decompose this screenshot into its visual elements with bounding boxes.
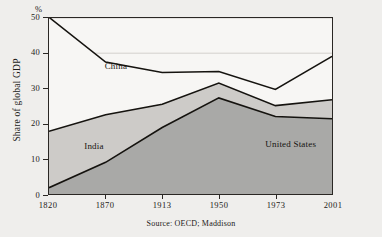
x-tick-label-1950: 1950 (194, 200, 244, 210)
y-tick-mark-0 (43, 195, 48, 196)
series-label-united-states: United States (265, 139, 316, 149)
y-tick-mark-10 (43, 159, 48, 160)
y-tick-mark-30 (43, 88, 48, 89)
plot-area (48, 17, 333, 195)
chart-figure: Share of global GDP % 01020304050 182018… (0, 0, 382, 237)
x-tick-label-1870: 1870 (80, 200, 130, 210)
stacked-area-chart (49, 18, 332, 194)
source-note: Source: OECD; Maddison (0, 219, 382, 228)
y-tick-label-40: 40 (14, 47, 40, 57)
x-tick-label-1820: 1820 (23, 200, 73, 210)
y-tick-label-50: 50 (14, 12, 40, 22)
x-tick-mark-1870 (105, 195, 106, 199)
x-tick-label-2001: 2001 (308, 200, 358, 210)
series-label-india: India (84, 141, 104, 151)
series-label-china: China (105, 61, 128, 71)
y-tick-mark-50 (43, 17, 48, 18)
y-tick-label-10: 10 (14, 154, 40, 164)
y-tick-mark-40 (43, 53, 48, 54)
y-tick-label-20: 20 (14, 118, 40, 128)
y-tick-label-30: 30 (14, 83, 40, 93)
x-tick-mark-1950 (219, 195, 220, 199)
y-tick-label-0: 0 (14, 190, 40, 200)
x-tick-label-1973: 1973 (251, 200, 301, 210)
x-tick-mark-1913 (162, 195, 163, 199)
x-tick-label-1913: 1913 (137, 200, 187, 210)
y-tick-mark-20 (43, 124, 48, 125)
x-tick-mark-1973 (276, 195, 277, 199)
